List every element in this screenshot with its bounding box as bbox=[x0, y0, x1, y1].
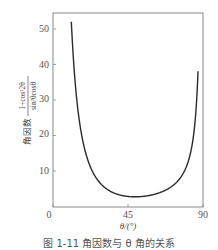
x-axis-title: θ/(°) bbox=[120, 221, 137, 231]
y-tick-label-30: 30 bbox=[39, 93, 49, 104]
x-tick-label-90: 90 bbox=[198, 209, 208, 220]
y-tick-label-40: 40 bbox=[39, 59, 49, 70]
y-axis-title-text: 角因数 bbox=[22, 118, 32, 145]
y-axis-title: 角因数 1+cos²2θ sin²θcosθ bbox=[18, 76, 38, 145]
data-curve bbox=[71, 22, 198, 197]
x-tick-label-0: 0 bbox=[47, 209, 52, 220]
y-axis-title-denominator: sin²θcosθ bbox=[29, 82, 38, 111]
y-axis-title-numerator: 1+cos²2θ bbox=[18, 82, 27, 110]
y-tick-label-10: 10 bbox=[39, 165, 49, 176]
y-tick-label-20: 20 bbox=[39, 128, 49, 139]
x-tick-label-45: 45 bbox=[123, 209, 133, 220]
y-tick-label-50: 50 bbox=[39, 23, 49, 34]
figure-caption: 图 1-11 角因数与 θ 角的关系 bbox=[0, 235, 218, 250]
